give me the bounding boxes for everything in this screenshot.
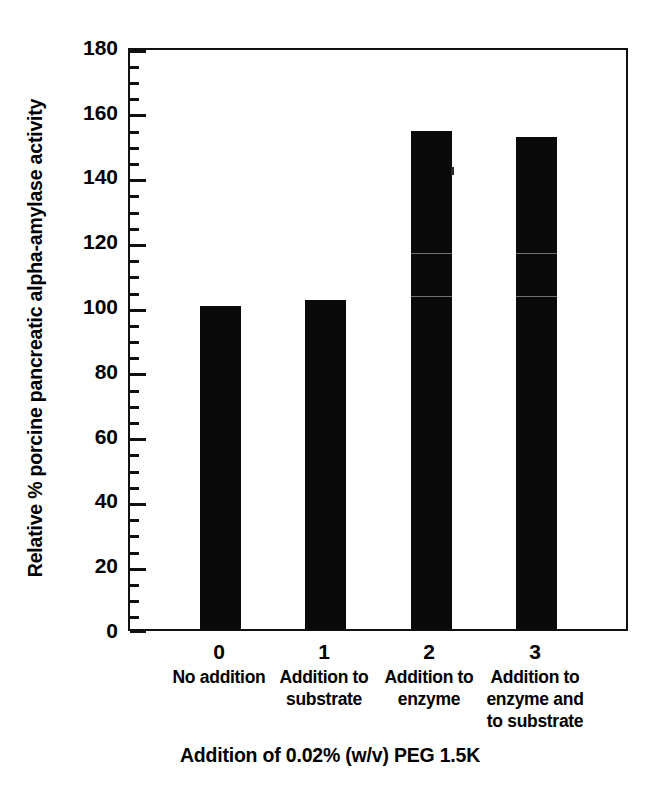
scan-artifact-line: [516, 296, 557, 297]
y-tick-minor-175: [130, 66, 139, 69]
y-tick-label-80: 80: [60, 361, 118, 382]
y-tick-label-60: 60: [60, 426, 118, 447]
y-tick-label-40: 40: [60, 490, 118, 511]
y-tick-label-180: 180: [60, 37, 118, 58]
y-tick-minor-145: [130, 163, 139, 166]
y-tick-minor-35: [130, 519, 139, 522]
y-tick-minor-135: [130, 195, 139, 198]
scan-artifact-speck: [451, 167, 454, 175]
y-tick-minor-70: [130, 406, 139, 409]
y-tick-minor-50: [130, 471, 139, 474]
y-tick-label-160: 160: [60, 102, 118, 123]
x-category-line: enzyme and: [483, 688, 587, 710]
bar-addition-to-substrate: [305, 300, 346, 630]
x-category-label-3: Addition to enzyme and to substrate: [483, 666, 587, 732]
y-tick-minor-30: [130, 535, 139, 538]
y-tick-minor-55: [130, 454, 139, 457]
bar-addition-to-enzyme-and-substrate: [516, 137, 557, 630]
x-tick-num-3: 3: [500, 640, 570, 663]
y-tick-major-0: [130, 630, 146, 633]
y-tick-label-0: 0: [60, 620, 118, 641]
x-category-line: to substrate: [483, 710, 587, 732]
y-tick-minor-110: [130, 276, 139, 279]
x-tick-num-2: 2: [394, 640, 464, 663]
y-tick-major-140: [130, 179, 146, 182]
y-tick-label-120: 120: [60, 231, 118, 252]
x-category-label-0: No addition: [167, 666, 271, 688]
y-tick-minor-5: [130, 616, 139, 619]
x-category-line: Addition to: [483, 666, 587, 688]
y-tick-minor-45: [130, 487, 139, 490]
y-tick-major-80: [130, 373, 146, 376]
y-tick-minor-75: [130, 390, 139, 393]
x-category-line: No addition: [167, 666, 271, 688]
x-category-line: substrate: [272, 688, 376, 710]
y-tick-major-60: [130, 438, 146, 441]
y-tick-major-120: [130, 244, 146, 247]
x-category-line: Addition to: [272, 666, 376, 688]
bar-no-addition: [200, 306, 241, 630]
y-tick-minor-125: [130, 228, 139, 231]
y-tick-major-100: [130, 309, 146, 312]
y-tick-minor-130: [130, 212, 139, 215]
y-tick-minor-95: [130, 325, 139, 328]
bar-addition-to-enzyme: [411, 131, 452, 630]
y-tick-minor-85: [130, 357, 139, 360]
plot-area: [128, 48, 628, 631]
y-tick-minor-25: [130, 552, 139, 555]
y-tick-minor-155: [130, 131, 139, 134]
y-tick-minor-115: [130, 260, 139, 263]
scan-artifact-line: [411, 296, 452, 297]
y-tick-minor-165: [130, 98, 139, 101]
y-tick-minor-150: [130, 147, 139, 150]
y-tick-label-140: 140: [60, 166, 118, 187]
y-tick-major-20: [130, 568, 146, 571]
y-axis-tick-labels: 180 160 140 120 100 80 60 40 20 0: [56, 0, 118, 806]
x-tick-num-0: 0: [184, 640, 254, 663]
x-tick-num-1: 1: [289, 640, 359, 663]
bar-chart-figure: Relative % porcine pancreatic alpha-amyl…: [0, 0, 660, 806]
y-tick-major-180: [130, 50, 146, 53]
x-category-line: Addition to: [377, 666, 481, 688]
y-tick-minor-90: [130, 341, 139, 344]
y-tick-minor-10: [130, 600, 139, 603]
y-tick-label-100: 100: [60, 296, 118, 317]
scan-artifact-line: [516, 253, 557, 254]
y-tick-label-20: 20: [60, 555, 118, 576]
y-tick-minor-170: [130, 82, 139, 85]
y-tick-major-40: [130, 503, 146, 506]
y-tick-major-160: [130, 114, 146, 117]
x-category-line: enzyme: [377, 688, 481, 710]
x-category-label-1: Addition to substrate: [272, 666, 376, 710]
y-tick-minor-105: [130, 293, 139, 296]
y-axis-title: Relative % porcine pancreatic alpha-amyl…: [18, 28, 52, 648]
y-tick-minor-15: [130, 584, 139, 587]
y-tick-minor-65: [130, 422, 139, 425]
scan-artifact-line: [411, 253, 452, 254]
x-category-label-2: Addition to enzyme: [377, 666, 481, 710]
x-axis-title: Addition of 0.02% (w/v) PEG 1.5K: [90, 744, 570, 767]
